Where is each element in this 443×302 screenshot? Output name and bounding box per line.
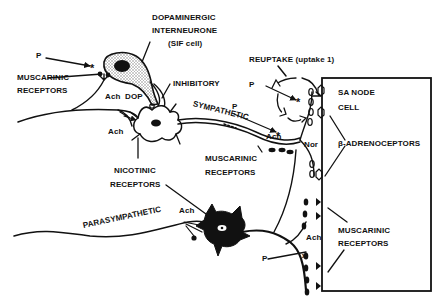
label-ach-parasympathetic: Ach xyxy=(179,207,194,215)
muscarinic-receptors-cell xyxy=(316,198,321,290)
sif-cell xyxy=(104,53,165,115)
label-nor: Nor xyxy=(304,141,318,149)
label-receptors-nicotinic: RECEPTORS xyxy=(110,181,161,189)
label-p-top-left: P xyxy=(36,52,41,60)
label-ach-terminal: Ach xyxy=(306,234,321,242)
label-cell: CELL xyxy=(338,104,359,112)
label-sa-node: SA NODE xyxy=(338,89,375,97)
label-dop: DOP xyxy=(125,93,143,101)
asterisk-icon: ⁎ xyxy=(302,250,307,260)
asterisk-icon: * xyxy=(296,96,301,108)
label-p-reuptake: P xyxy=(249,81,254,89)
autonomic-innervation-diagram: * * * ⁎ DOPAMINERGIC INTERNEURONE (SIF c… xyxy=(0,0,443,302)
label-ach-sif: Ach xyxy=(105,93,120,101)
label-nicotinic: NICOTINIC xyxy=(114,167,156,175)
parasympathetic-ganglion-neuron xyxy=(196,204,250,256)
label-muscarinic-mid: MUSCARINIC xyxy=(205,155,257,163)
label-p-bottom: P xyxy=(262,255,267,263)
label-receptors-right: RECEPTORS xyxy=(338,240,389,248)
label-p-sympathetic: P xyxy=(232,103,237,111)
label-beta-adrenoceptors: β-ADRENOCEPTORS xyxy=(338,140,420,148)
label-receptors-mid: RECEPTORS xyxy=(205,169,256,177)
diagram-drawing: * * * ⁎ xyxy=(0,0,443,302)
label-reuptake: REUPTAKE (uptake 1) xyxy=(249,56,334,64)
asterisk-icon: * xyxy=(90,62,95,74)
label-ach-sympathetic: Ach xyxy=(266,133,281,141)
label-ach-ganglion: Ach xyxy=(108,128,123,136)
label-muscarinic-right: MUSCARINIC xyxy=(338,227,390,235)
label-interneurone: INTERNEURONE xyxy=(152,27,217,35)
label-sif-cell: (SIF cell) xyxy=(168,40,202,48)
label-dopaminergic: DOPAMINERGIC xyxy=(152,14,216,22)
label-muscarinic-top: MUSCARINIC xyxy=(17,74,69,82)
label-receptors-top: RECEPTORS xyxy=(17,87,68,95)
label-inhibitory: INHIBITORY xyxy=(173,80,220,88)
